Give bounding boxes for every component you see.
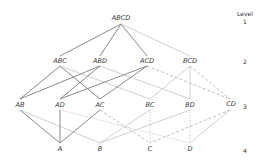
node-BD: BD [185, 101, 194, 109]
edge-ABCD-ABC [60, 24, 121, 56]
node-AB: AB [16, 101, 25, 109]
edge-ABC-AB [20, 66, 60, 99]
node-A: A [58, 145, 62, 153]
edge-BCD-CD [190, 66, 230, 99]
node-B: B [98, 145, 102, 153]
level-3-label: 3 [243, 103, 247, 110]
node-BC: BC [146, 101, 155, 109]
edge-ABCD-ABD [100, 24, 121, 56]
node-ABCD: ABCD [112, 14, 130, 22]
edge-ABD-BD [100, 66, 190, 99]
node-C: C [148, 145, 153, 153]
lattice-edges [0, 0, 263, 166]
level-2-label: 2 [243, 58, 247, 65]
node-ABD: ABD [93, 57, 107, 65]
node-ACD: ACD [140, 57, 154, 65]
node-AC: AC [96, 101, 105, 109]
node-D: D [187, 145, 192, 153]
edge-BD-B [100, 110, 190, 143]
edge-ABCD-BCD [121, 24, 190, 56]
node-AD: AD [55, 101, 64, 109]
edge-ABD-AB [20, 66, 100, 99]
edge-ACD-AC [100, 66, 147, 99]
node-CD: CD [226, 100, 236, 108]
edge-CD-D [190, 110, 230, 143]
level-header: Level [237, 10, 253, 17]
node-BCD: BCD [183, 57, 197, 65]
edge-ACD-CD [147, 66, 230, 99]
edge-AB-A [20, 110, 60, 143]
node-ABC: ABC [53, 57, 66, 65]
edge-BCD-BC [150, 66, 190, 99]
level-1-label: 1 [243, 18, 247, 25]
level-4-label: 4 [243, 147, 247, 154]
edge-ABCD-ACD [121, 24, 147, 56]
